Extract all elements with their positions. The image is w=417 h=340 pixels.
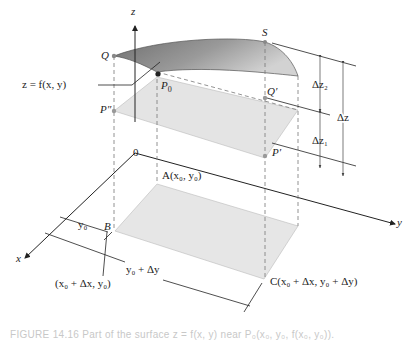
label-Q-prime: Q′ [267, 85, 278, 97]
label-P-double-prime: P″ [99, 103, 112, 115]
dz-label: Δz [337, 111, 349, 123]
point-S-marker [263, 40, 267, 44]
point-Q-marker [112, 54, 116, 58]
dz1-label: Δz₁ [312, 134, 328, 146]
dz2-label: Δz₂ [312, 78, 328, 90]
point-P-double-prime-marker [112, 109, 116, 113]
label-S: S [262, 26, 268, 38]
x-axis-label: x [15, 252, 21, 264]
figure-caption: FIGURE 14.16 Part of the surface z = f(x… [10, 329, 410, 340]
y0-plus-dy-label: y₀ + Δy [126, 263, 160, 275]
y-axis-label: y [396, 216, 402, 228]
y0-label: y₀ [78, 218, 88, 230]
label-Q: Q [101, 49, 109, 61]
point-P0-marker [155, 71, 160, 76]
x-axis [25, 153, 135, 258]
origin-label: 0 [133, 146, 139, 158]
diagram-canvas: z x y 0 Q S P0 P″ Q′ P′ A(x₀, y₀) B (x₀ … [0, 0, 417, 340]
surface-function-label: z = f(x, y) [22, 78, 66, 91]
point-P-prime-marker [263, 154, 267, 158]
label-B: B [104, 220, 111, 232]
label-P-prime: P′ [271, 146, 282, 158]
z-axis-label: z [130, 5, 136, 17]
label-B-coords: (x₀ + Δx, y₀) [55, 277, 111, 290]
label-C: C(x₀ + Δx, y₀ + Δy) [270, 275, 358, 288]
label-A: A(x₀, y₀) [162, 169, 202, 182]
surface-patch [114, 39, 298, 76]
